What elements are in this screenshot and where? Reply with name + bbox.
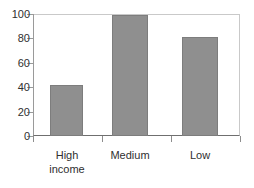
y-axis-label-0: 0 (0, 131, 30, 142)
x-axis-label-medium: Medium (99, 148, 161, 162)
y-axis-label-60: 60 (0, 58, 30, 69)
y-axis-label-80: 80 (0, 33, 30, 44)
bar-chart: 100 80 60 40 20 0 High income Medium Low (0, 0, 254, 188)
x-tick-mark-end (240, 136, 241, 142)
y-axis-label-100: 100 (0, 9, 30, 20)
y-axis-label-20: 20 (0, 107, 30, 118)
bar-low (182, 37, 218, 136)
x-axis-label-high-income: High income (36, 148, 98, 176)
bar-medium (112, 15, 148, 136)
bar-high-income (50, 85, 83, 136)
x-tick-mark-start (33, 136, 34, 142)
x-tick-mark-1 (102, 136, 103, 142)
x-tick-mark-2 (171, 136, 172, 142)
y-axis-label-40: 40 (0, 82, 30, 93)
x-axis-label-low: Low (169, 148, 231, 162)
